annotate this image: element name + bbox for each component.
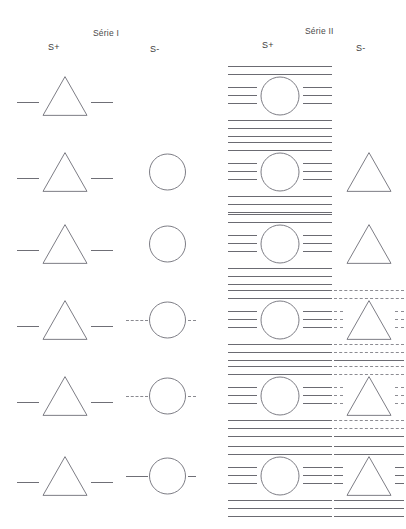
hatch-line-full <box>228 204 332 205</box>
flank-rule-right <box>188 476 196 477</box>
hatch-line-right <box>303 95 332 96</box>
hatch-line-full <box>228 428 332 429</box>
triangle-shape <box>0 0 406 529</box>
flank-rule-right <box>188 320 196 321</box>
hatch-line-right <box>303 467 332 468</box>
flank-rule-right <box>91 402 113 403</box>
hatch-line-separator <box>228 516 332 517</box>
flank-rule-right <box>91 250 113 251</box>
hatch-line-full <box>228 374 332 375</box>
circle-shape <box>0 0 406 529</box>
hatch-line-right <box>395 311 404 312</box>
hatch-line-right <box>303 87 332 88</box>
flank-rule-left <box>17 326 39 327</box>
hatch-line-full <box>228 66 332 67</box>
hatch-line-separator <box>228 136 332 137</box>
hatch-line-left <box>228 103 257 104</box>
circle-shape <box>0 0 406 529</box>
hatch-line-left <box>228 395 257 396</box>
hatch-line-left <box>228 311 257 312</box>
hatch-line-left <box>228 319 257 320</box>
hatch-line-right <box>303 179 332 180</box>
hatch-line-right <box>303 103 332 104</box>
flank-rule-left <box>17 482 39 483</box>
hatch-line-full <box>334 344 404 345</box>
hatch-line-right <box>395 403 404 404</box>
hatch-line-left <box>228 235 257 236</box>
triangle-shape <box>0 0 406 529</box>
hatch-line-full <box>228 150 332 151</box>
triangle-shape <box>0 0 406 529</box>
hatch-line-full <box>228 420 332 421</box>
series-1-s-minus-label: S- <box>150 44 159 54</box>
series-1-s-plus-label: S+ <box>48 42 60 52</box>
hatch-line-full <box>334 428 404 429</box>
hatch-line-full <box>228 298 332 299</box>
triangle-shape <box>0 0 406 529</box>
hatch-line-full <box>334 500 404 501</box>
hatch-line-right <box>303 475 332 476</box>
flank-rule-right <box>188 396 196 397</box>
series-2-s-minus-label: S- <box>356 43 365 53</box>
hatch-line-right <box>395 483 404 484</box>
hatch-line-full <box>228 446 332 447</box>
hatch-line-full <box>228 268 332 269</box>
hatch-line-right <box>395 387 404 388</box>
hatch-line-separator <box>334 516 404 517</box>
circle-shape <box>0 0 406 529</box>
hatch-line-right <box>395 319 404 320</box>
hatch-line-full <box>334 420 404 421</box>
hatch-line-full <box>334 366 404 367</box>
hatch-line-full <box>228 352 332 353</box>
hatch-line-right <box>303 171 332 172</box>
series-2-title: Série II <box>305 26 334 36</box>
hatch-line-left <box>228 251 257 252</box>
hatch-line-left <box>228 387 257 388</box>
hatch-line-separator <box>228 212 332 213</box>
hatch-line-full <box>334 508 404 509</box>
hatch-line-left <box>228 475 257 476</box>
flank-rule-left <box>17 178 39 179</box>
hatch-line-full <box>228 454 332 455</box>
circle-shape <box>0 0 406 529</box>
hatch-line-left <box>334 483 343 484</box>
hatch-line-full <box>228 214 332 215</box>
flank-rule-left <box>17 250 39 251</box>
triangle-shape <box>0 0 406 529</box>
hatch-line-left <box>334 319 343 320</box>
circle-shape <box>0 0 406 529</box>
hatch-line-full <box>334 374 404 375</box>
hatch-line-separator <box>228 360 332 361</box>
hatch-line-left <box>228 483 257 484</box>
flank-rule-right <box>91 326 113 327</box>
hatch-line-full <box>228 142 332 143</box>
flank-rule-left <box>126 396 148 397</box>
hatch-line-right <box>303 235 332 236</box>
hatch-line-separator <box>334 360 404 361</box>
hatch-line-left <box>228 327 257 328</box>
hatch-line-right <box>303 251 332 252</box>
circle-shape <box>0 0 406 529</box>
hatch-line-left <box>228 179 257 180</box>
hatch-line-full <box>228 290 332 291</box>
hatch-line-separator <box>228 284 332 285</box>
hatch-line-full <box>228 366 332 367</box>
hatch-line-full <box>228 120 332 121</box>
flank-rule-left <box>17 402 39 403</box>
hatch-line-full <box>228 128 332 129</box>
triangle-shape <box>0 0 406 529</box>
hatch-line-right <box>303 243 332 244</box>
hatch-line-separator <box>228 436 332 437</box>
hatch-line-full <box>228 500 332 501</box>
hatch-line-right <box>303 403 332 404</box>
circle-shape <box>0 0 406 529</box>
hatch-line-left <box>228 87 257 88</box>
hatch-line-left <box>228 163 257 164</box>
hatch-line-full <box>228 222 332 223</box>
flank-rule-left <box>17 102 39 103</box>
hatch-line-right <box>303 311 332 312</box>
flank-rule-right <box>91 178 113 179</box>
hatch-line-full <box>228 196 332 197</box>
triangle-shape <box>0 0 406 529</box>
flank-rule-right <box>91 482 113 483</box>
